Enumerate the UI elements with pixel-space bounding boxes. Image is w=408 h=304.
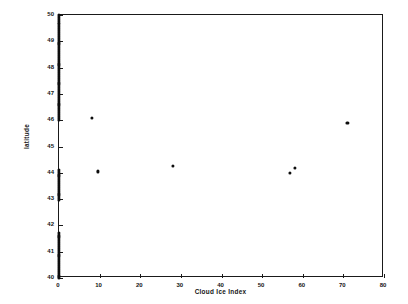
data-point: [346, 121, 349, 124]
x-axis-tick-label: 80: [380, 282, 387, 288]
x-axis-tick: [140, 274, 141, 278]
x-axis-tick: [303, 274, 304, 278]
y-axis-tick-label: 40: [32, 274, 54, 280]
x-axis-tick: [100, 274, 101, 278]
x-axis-label: Cloud Ice Index: [58, 288, 383, 295]
x-axis-tick-label: 30: [177, 282, 184, 288]
y-axis-tick-label: 48: [32, 64, 54, 70]
data-point: [288, 171, 291, 174]
y-axis-tick-label: 46: [32, 116, 54, 122]
x-axis-tick-label: 60: [298, 282, 305, 288]
y-axis-tick-label: 50: [32, 11, 54, 17]
x-axis-tick-label: 20: [136, 282, 143, 288]
x-axis-tick: [384, 274, 385, 278]
data-point: [57, 198, 60, 201]
y-axis-tick-label: 42: [32, 221, 54, 227]
x-axis-tick-label: 50: [258, 282, 265, 288]
scatter-plot-figure: Transect along 80-81 West, 20-04-98, 22:…: [0, 0, 408, 304]
y-axis-tick-label: 47: [32, 90, 54, 96]
data-point: [96, 170, 99, 173]
data-point: [57, 119, 60, 122]
x-axis-tick: [343, 274, 344, 278]
x-axis-tick: [262, 274, 263, 278]
x-axis-tick-label: 0: [56, 282, 59, 288]
y-axis-tick-label: 41: [32, 248, 54, 254]
y-axis-tick-label: 49: [32, 37, 54, 43]
data-point: [90, 116, 93, 119]
data-point: [171, 165, 174, 168]
y-axis-tick-label: 44: [32, 169, 54, 175]
x-axis-tick-label: 40: [217, 282, 224, 288]
x-axis-tick: [181, 274, 182, 278]
data-point: [293, 166, 296, 169]
y-axis-tick: [59, 147, 63, 148]
plot-area: [59, 15, 382, 276]
x-axis-tick-label: 10: [95, 282, 102, 288]
plot-frame: [58, 14, 383, 277]
y-axis-tick-label: 45: [32, 143, 54, 149]
x-axis-tick-label: 70: [339, 282, 346, 288]
y-axis-tick-label: 43: [32, 195, 54, 201]
x-axis-tick: [222, 274, 223, 278]
y-axis-label: latitude: [23, 117, 30, 157]
y-axis-tick: [59, 225, 63, 226]
